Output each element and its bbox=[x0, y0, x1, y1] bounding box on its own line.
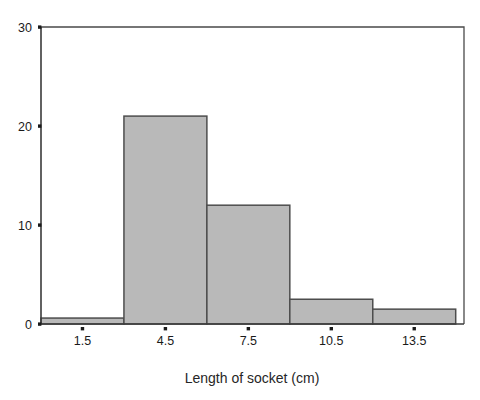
y-tick-label: 10 bbox=[18, 219, 32, 233]
histogram-bar bbox=[124, 116, 207, 324]
histogram-bar bbox=[290, 299, 373, 324]
y-tick-label: 30 bbox=[18, 21, 32, 35]
x-tick-label: 10.5 bbox=[319, 334, 343, 348]
y-tick-mark bbox=[38, 25, 41, 28]
x-tick-label: 7.5 bbox=[240, 334, 257, 348]
y-tick-mark bbox=[38, 124, 41, 127]
x-tick-label: 13.5 bbox=[402, 334, 426, 348]
y-tick-label: 0 bbox=[25, 318, 32, 332]
histogram-figure: 0102030 1.54.57.510.513.5 Length of sock… bbox=[0, 0, 480, 400]
y-tick-label: 20 bbox=[18, 120, 32, 134]
x-tick-mark bbox=[330, 327, 333, 330]
x-tick-mark bbox=[413, 327, 416, 330]
x-axis-ticks: 1.54.57.510.513.5 bbox=[74, 327, 427, 348]
x-tick-label: 4.5 bbox=[157, 334, 174, 348]
histogram-bar bbox=[207, 205, 290, 324]
x-tick-mark bbox=[247, 327, 250, 330]
y-axis-ticks: 0102030 bbox=[18, 21, 41, 332]
x-tick-mark bbox=[81, 327, 84, 330]
y-tick-mark bbox=[38, 322, 41, 325]
x-tick-label: 1.5 bbox=[74, 334, 91, 348]
histogram-svg: 0102030 1.54.57.510.513.5 Length of sock… bbox=[0, 0, 480, 400]
x-tick-mark bbox=[164, 327, 167, 330]
y-tick-mark bbox=[38, 223, 41, 226]
histogram-bar bbox=[373, 309, 456, 324]
x-axis-title: Length of socket (cm) bbox=[185, 370, 320, 386]
histogram-bar bbox=[41, 318, 124, 324]
